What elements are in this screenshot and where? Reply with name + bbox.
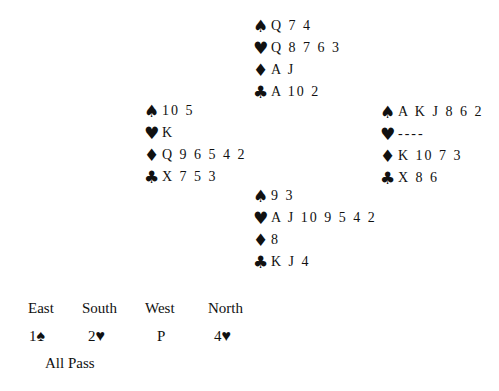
club-icon: ♣ bbox=[380, 170, 398, 187]
bid-north: 4♥ bbox=[214, 327, 231, 345]
north-spades-cards: Q 7 4 bbox=[271, 19, 312, 33]
bid-level: P bbox=[157, 328, 165, 344]
south-hearts-cards: A J 10 9 5 4 2 bbox=[271, 211, 377, 225]
bid-level: 1 bbox=[29, 328, 37, 344]
north-diamonds: ♦ A J bbox=[253, 59, 295, 81]
bid-east: 1♠ bbox=[29, 327, 45, 345]
west-diamonds-cards: Q 9 6 5 4 2 bbox=[162, 148, 247, 162]
club-icon: ♣ bbox=[253, 84, 271, 101]
east-hearts: ♥ ---- bbox=[380, 123, 425, 145]
spade-icon: ♠ bbox=[144, 103, 162, 120]
east-clubs-cards: X 8 6 bbox=[398, 171, 439, 185]
spade-icon: ♠ bbox=[253, 18, 271, 35]
east-diamonds: ♦ K 10 7 3 bbox=[380, 145, 463, 167]
north-hearts-cards: Q 8 7 6 3 bbox=[271, 41, 341, 55]
south-clubs: ♣ K J 4 bbox=[253, 251, 311, 273]
east-spades: ♠ A K J 8 6 2 bbox=[380, 101, 483, 123]
heart-icon: ♥ bbox=[253, 210, 271, 227]
diamond-icon: ♦ bbox=[144, 147, 162, 164]
bidding-header-south: South bbox=[82, 300, 117, 317]
bid-level: 4 bbox=[214, 328, 222, 344]
heart-icon: ♥ bbox=[380, 126, 398, 143]
north-clubs: ♣ A 10 2 bbox=[253, 81, 320, 103]
south-diamonds-cards: 8 bbox=[271, 233, 280, 247]
west-spades-cards: 10 5 bbox=[162, 104, 195, 118]
diamond-icon: ♦ bbox=[253, 62, 271, 79]
north-hearts: ♥ Q 8 7 6 3 bbox=[253, 37, 341, 59]
spade-icon: ♠ bbox=[380, 104, 398, 121]
club-icon: ♣ bbox=[253, 254, 271, 271]
heart-icon: ♥ bbox=[144, 125, 162, 142]
west-spades: ♠ 10 5 bbox=[144, 100, 195, 122]
bidding-header-north: North bbox=[208, 300, 243, 317]
north-clubs-cards: A 10 2 bbox=[271, 85, 320, 99]
east-spades-cards: A K J 8 6 2 bbox=[398, 105, 483, 119]
east-hearts-cards: ---- bbox=[398, 127, 425, 141]
bid-west: P bbox=[157, 327, 165, 345]
south-diamonds: ♦ 8 bbox=[253, 229, 280, 251]
west-hearts: ♥ K bbox=[144, 122, 174, 144]
west-diamonds: ♦ Q 9 6 5 4 2 bbox=[144, 144, 247, 166]
bidding-final: All Pass bbox=[45, 355, 95, 372]
heart-icon: ♥ bbox=[96, 327, 106, 344]
heart-icon: ♥ bbox=[222, 327, 232, 344]
west-clubs-cards: X 7 5 3 bbox=[162, 170, 218, 184]
diamond-icon: ♦ bbox=[380, 148, 398, 165]
south-spades: ♠ 9 3 bbox=[253, 185, 295, 207]
bidding-header-east: East bbox=[28, 300, 54, 317]
east-clubs: ♣ X 8 6 bbox=[380, 167, 439, 189]
bid-level: 2 bbox=[88, 328, 96, 344]
west-clubs: ♣ X 7 5 3 bbox=[144, 166, 218, 188]
north-diamonds-cards: A J bbox=[271, 63, 295, 77]
diamond-icon: ♦ bbox=[253, 232, 271, 249]
south-hearts: ♥ A J 10 9 5 4 2 bbox=[253, 207, 377, 229]
heart-icon: ♥ bbox=[253, 40, 271, 57]
club-icon: ♣ bbox=[144, 169, 162, 186]
west-hearts-cards: K bbox=[162, 126, 174, 140]
south-spades-cards: 9 3 bbox=[271, 189, 295, 203]
bid-south: 2♥ bbox=[88, 327, 105, 345]
spade-icon: ♠ bbox=[253, 188, 271, 205]
north-spades: ♠ Q 7 4 bbox=[253, 15, 312, 37]
south-clubs-cards: K J 4 bbox=[271, 255, 311, 269]
east-diamonds-cards: K 10 7 3 bbox=[398, 149, 463, 163]
bidding-header-west: West bbox=[145, 300, 175, 317]
spade-icon: ♠ bbox=[37, 327, 46, 344]
